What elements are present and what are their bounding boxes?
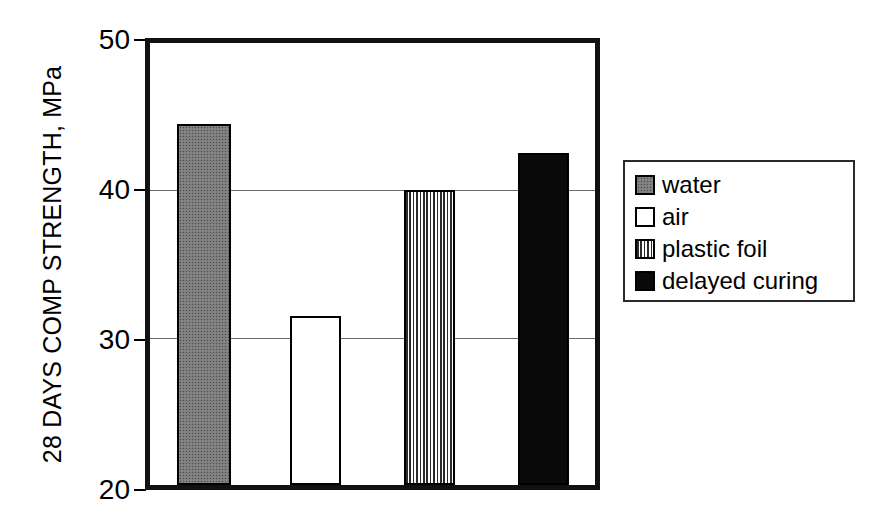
- legend-item-plastic-foil: plastic foil: [635, 233, 853, 265]
- y-tick-label-40: 40: [70, 176, 130, 204]
- legend-label-delayed-curing: delayed curing: [662, 269, 818, 293]
- legend-swatch-delayed-curing-icon: [635, 271, 655, 291]
- legend-swatch-water-icon: [635, 175, 655, 195]
- legend-swatch-air-icon: [635, 207, 655, 227]
- plot-inner: [150, 43, 595, 485]
- bar-delayed-curing: [518, 153, 569, 485]
- y-axis-title: 28 DAYS COMP STRENGTH, MPa: [38, 30, 67, 500]
- legend-item-air: air: [635, 201, 853, 233]
- legend-label-air: air: [662, 205, 689, 229]
- bar-water: [177, 124, 231, 485]
- bar-chart-figure: 28 DAYS COMP STRENGTH, MPa 50 40 30 20 w…: [0, 0, 890, 532]
- legend-item-delayed-curing: delayed curing: [635, 265, 853, 297]
- legend-label-water: water: [662, 173, 721, 197]
- legend-swatch-plastic-foil-icon: [635, 239, 655, 259]
- bar-plastic-foil: [404, 190, 455, 485]
- y-tick-label-30: 30: [70, 326, 130, 354]
- bar-air: [290, 316, 341, 485]
- y-tick-label-50: 50: [70, 26, 130, 54]
- legend-label-plastic-foil: plastic foil: [662, 237, 767, 261]
- legend-item-water: water: [635, 169, 853, 201]
- plot-area: [145, 38, 600, 490]
- legend: water air plastic foil delayed curing: [623, 160, 855, 302]
- y-axis-tick-labels: 50 40 30 20: [68, 0, 130, 532]
- y-tick-label-20: 20: [70, 476, 130, 504]
